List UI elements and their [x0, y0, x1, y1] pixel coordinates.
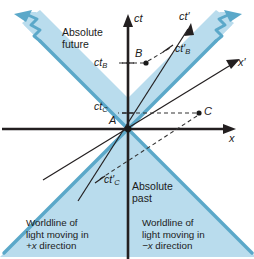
caption-right-line1: Worldline of [142, 217, 205, 229]
event-label-B: B [135, 47, 142, 60]
ct-prime-axis-arrowhead [184, 23, 194, 36]
x-axis-label: x [229, 132, 235, 145]
tick-label-ct-C-base: ct [94, 100, 102, 112]
event-point-A[interactable] [125, 126, 131, 132]
tick-ct-prime-B [163, 45, 173, 52]
region-label-absolute-past-line2: past [132, 192, 173, 204]
region-label-absolute-past-line1: Absolute [132, 180, 173, 192]
tick-label-ct-B-sub: B [102, 61, 107, 70]
tick-label-ct-B: ctB [94, 56, 107, 71]
event-label-A: A [109, 114, 116, 127]
region-label-absolute-future-line1: Absolute [62, 26, 103, 38]
tick-label-ct-prime-B: ct′B [175, 42, 190, 57]
ct-prime-axis-label: ct′ [179, 10, 190, 23]
tick-label-ct-prime-B-sub: B [185, 47, 190, 56]
caption-right-worldline: Worldline of light moving in −x directio… [142, 217, 205, 252]
tick-label-ct-C: ctC [94, 100, 108, 115]
event-label-C: C [204, 105, 212, 118]
caption-left-line2: light moving in [26, 229, 89, 241]
caption-right-line3: −x direction [142, 240, 205, 252]
tick-label-ct-prime-B-base: ct′ [175, 42, 185, 54]
tick-label-ct-B-base: ct [94, 56, 102, 68]
region-label-absolute-past: Absolute past [132, 180, 173, 205]
event-point-B[interactable] [143, 60, 148, 65]
spacetime-diagram-figure: ct x ct′ x′ A B C ctB ctC ct′B ct′C Abso… [0, 0, 254, 259]
tick-label-ct-prime-C: ct′C [104, 173, 120, 188]
region-label-absolute-future: Absolute future [62, 26, 103, 51]
caption-left-line3: +x direction [26, 240, 89, 252]
ct-axis-label: ct [134, 12, 143, 25]
caption-left-line1: Worldline of [26, 217, 89, 229]
caption-left-worldline: Worldline of light moving in +x directio… [26, 217, 89, 252]
tick-label-ct-C-sub: C [102, 105, 107, 114]
caption-right-line2: light moving in [142, 229, 205, 241]
region-label-absolute-future-line2: future [62, 38, 103, 50]
caption-left-line3-rest: direction [37, 240, 77, 251]
ct-axis-arrowhead [123, 14, 133, 27]
x-prime-axis-label: x′ [238, 56, 246, 69]
tick-label-ct-prime-C-base: ct′ [104, 173, 114, 185]
event-point-C[interactable] [196, 110, 201, 115]
tick-label-ct-prime-C-sub: C [114, 178, 119, 187]
caption-right-line3-rest: direction [153, 240, 193, 251]
